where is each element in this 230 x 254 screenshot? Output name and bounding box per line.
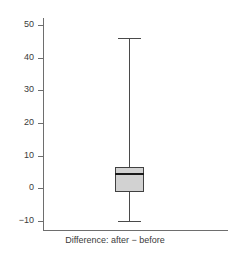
y-axis-tick-mark <box>38 188 43 189</box>
y-axis-tick-label: 0 <box>0 183 34 192</box>
lower-whisker-cap <box>118 221 141 222</box>
box-plot-figure: 50403020100−10 Difference: after − befor… <box>0 0 230 254</box>
y-axis-tick-mark <box>38 25 43 26</box>
y-axis-tick-label: 20 <box>0 118 34 127</box>
upper-whisker-cap <box>118 38 141 39</box>
y-axis-tick-mark <box>38 123 43 124</box>
x-axis-line <box>43 230 228 231</box>
y-axis-tick-mark <box>38 90 43 91</box>
y-axis-tick-mark <box>38 156 43 157</box>
y-axis-tick-label: 50 <box>0 20 34 29</box>
lower-whisker-line <box>129 192 130 221</box>
y-axis-tick-mark <box>38 221 43 222</box>
y-axis-tick-label: 10 <box>0 151 34 160</box>
y-axis-tick-label: −10 <box>0 216 34 225</box>
y-axis-tick-mark <box>38 58 43 59</box>
x-axis-label: Difference: after − before <box>0 235 230 246</box>
upper-whisker-line <box>129 38 130 167</box>
y-axis-line <box>43 18 44 231</box>
median-line <box>115 173 144 175</box>
interquartile-box <box>115 167 144 191</box>
y-axis-tick-label: 30 <box>0 85 34 94</box>
y-axis-tick-label: 40 <box>0 53 34 62</box>
